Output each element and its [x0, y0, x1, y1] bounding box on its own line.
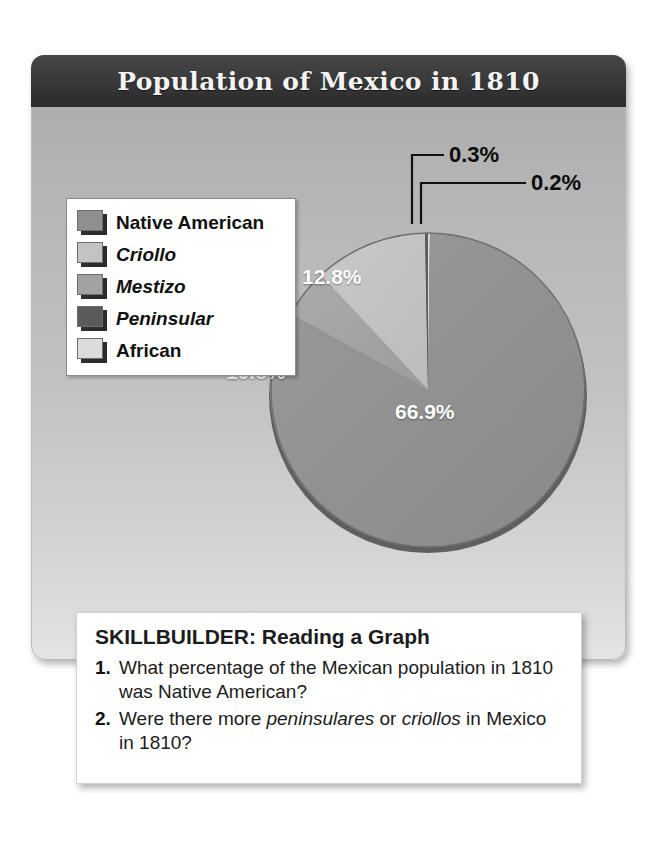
legend-swatch-mestizo	[77, 274, 107, 298]
question-text: What percentage of the Mexican populatio…	[119, 656, 565, 705]
skillbuilder-question-2: 2. Were there more peninsulares or criol…	[95, 707, 565, 756]
question-text: Were there more peninsulares or criollos…	[119, 707, 565, 756]
legend-item-criollo: Criollo	[77, 238, 287, 270]
swatch-fill	[77, 242, 103, 263]
swatch-fill	[77, 338, 103, 359]
legend-swatch-african	[77, 338, 107, 362]
question-number: 2.	[95, 707, 119, 756]
figure-root: Population of Mexico in 1810	[0, 0, 653, 848]
legend-swatch-criollo	[77, 242, 107, 266]
legend-swatch-peninsular	[77, 306, 107, 330]
legend-label-african: African	[116, 341, 181, 360]
legend-label-native-american: Native American	[116, 213, 264, 232]
legend-item-african: African	[77, 334, 287, 366]
legend-item-mestizo: Mestizo	[77, 270, 287, 302]
chart-legend: Native American Criollo Mestizo Peninsul…	[66, 198, 296, 376]
callout-peninsular-value: 0.3%	[449, 142, 499, 168]
legend-label-peninsular: Peninsular	[116, 309, 213, 328]
term-criollos: criollos	[402, 708, 461, 729]
pie-label-criollo: 12.8%	[302, 265, 362, 289]
swatch-fill	[77, 210, 103, 231]
chart-title: Population of Mexico in 1810	[117, 67, 540, 96]
legend-label-mestizo: Mestizo	[116, 277, 186, 296]
skillbuilder-box: SKILLBUILDER: Reading a Graph 1. What pe…	[76, 612, 582, 784]
callout-african-value: 0.2%	[531, 170, 581, 196]
chart-title-bar: Population of Mexico in 1810	[31, 55, 626, 107]
term-peninsulares: peninsulares	[266, 708, 374, 729]
question-number: 1.	[95, 656, 119, 705]
legend-swatch-native-american	[77, 210, 107, 234]
legend-label-criollo: Criollo	[116, 245, 176, 264]
legend-item-native-american: Native American	[77, 206, 287, 238]
swatch-fill	[77, 274, 103, 295]
swatch-fill	[77, 306, 103, 327]
pie-label-native-american: 66.9%	[395, 400, 455, 424]
skillbuilder-heading: SKILLBUILDER: Reading a Graph	[95, 625, 565, 649]
skillbuilder-question-1: 1. What percentage of the Mexican popula…	[95, 656, 565, 705]
legend-item-peninsular: Peninsular	[77, 302, 287, 334]
